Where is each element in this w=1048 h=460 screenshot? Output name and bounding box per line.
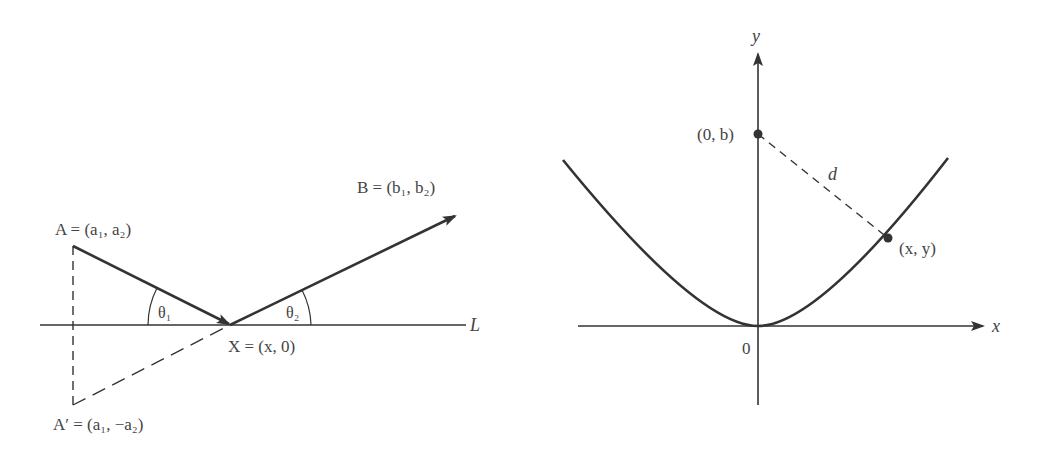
right-figure: y x 0 (0, b) (x, y) d: [563, 26, 1000, 405]
distance-line-d: [758, 134, 888, 238]
label-theta1: θ₁: [158, 304, 171, 321]
label-y-axis: y: [750, 26, 760, 46]
label-B: B = (b₁, b₂): [357, 178, 435, 197]
label-x-axis: x: [991, 316, 1000, 336]
label-A-prime: A′ = (a₁, −a₂): [53, 415, 143, 434]
label-point-0-b: (0, b): [697, 125, 734, 144]
label-L: L: [469, 315, 480, 335]
left-figure: A = (a₁, a₂) B = (b₁, b₂) X = (x, 0) A′ …: [40, 178, 480, 434]
angle-arc-theta1: [148, 288, 157, 325]
ray-A-to-X: [73, 246, 229, 324]
label-theta2: θ₂: [286, 304, 299, 321]
label-point-x-y: (x, y): [899, 239, 936, 258]
dashed-Aprime-to-X: [73, 325, 230, 405]
parabola-curve: [563, 158, 948, 326]
label-origin: 0: [742, 339, 751, 358]
label-A: A = (a₁, a₂): [55, 220, 131, 239]
diagram-canvas: A = (a₁, a₂) B = (b₁, b₂) X = (x, 0) A′ …: [0, 0, 1048, 460]
label-distance-d: d: [828, 164, 838, 184]
point-x-y: [884, 234, 893, 243]
angle-arc-theta2: [302, 290, 311, 325]
point-0-b: [754, 130, 763, 139]
label-X: X = (x, 0): [228, 337, 295, 356]
ray-X-to-B: [230, 216, 455, 325]
